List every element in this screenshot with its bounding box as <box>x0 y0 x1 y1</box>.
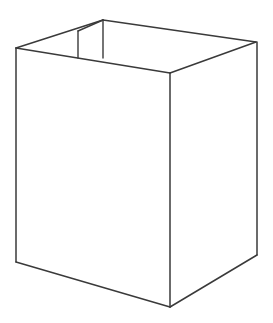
figure-canvas <box>0 0 273 323</box>
open-box-line-drawing <box>0 0 273 323</box>
